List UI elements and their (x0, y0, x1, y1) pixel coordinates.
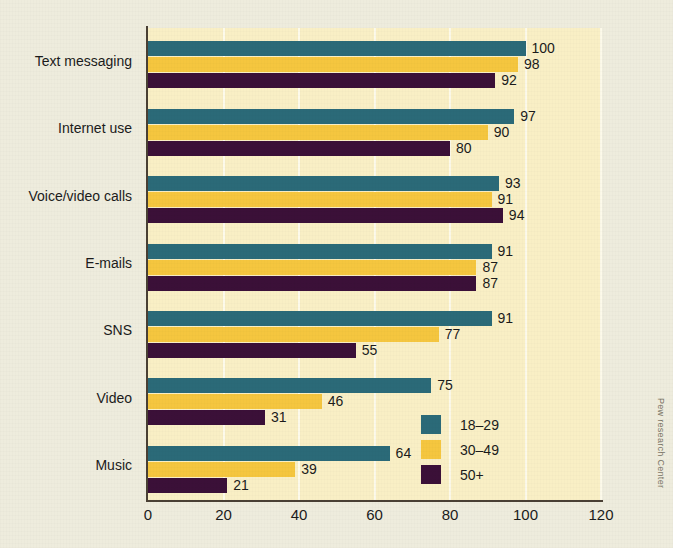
bar-e-mails-50+ (148, 276, 476, 291)
legend-item: 30–49 (421, 437, 499, 462)
bar-e-mails-30-49 (148, 260, 476, 275)
bar-value-label: 80 (456, 141, 472, 156)
bar-internet-use-18-29 (148, 109, 514, 124)
bar-value-label: 87 (482, 260, 498, 275)
bar-value-label: 92 (501, 73, 517, 88)
bar-voice-video-calls-18-29 (148, 176, 499, 191)
x-tick-label: 80 (420, 506, 480, 523)
category-label-text-messaging: Text messaging (0, 53, 141, 69)
bar-value-label: 90 (494, 125, 510, 140)
chart-figure: 1009892979080939194918787917755754631643… (0, 0, 673, 548)
bar-text-messaging-30-49 (148, 57, 518, 72)
legend-label: 30–49 (460, 442, 499, 458)
category-label-sns: SNS (0, 322, 141, 338)
legend-swatch-icon (421, 465, 441, 484)
legend-swatch-icon (421, 440, 441, 459)
bar-music-30-49 (148, 462, 295, 477)
bar-value-label: 100 (532, 41, 555, 56)
bar-value-label: 94 (509, 208, 525, 223)
bar-value-label: 91 (498, 244, 514, 259)
bar-value-label: 31 (271, 410, 287, 425)
plot-area: 1009892979080939194918787917755754631643… (148, 28, 601, 500)
chart-legend: 18–2930–4950+ (421, 412, 499, 487)
bar-value-label: 64 (396, 446, 412, 461)
bar-value-label: 91 (498, 192, 514, 207)
category-label-internet-use: Internet use (0, 120, 141, 136)
bar-video-30-49 (148, 394, 322, 409)
legend-item: 50+ (421, 462, 499, 487)
bar-music-50+ (148, 478, 227, 493)
bar-value-label: 97 (520, 109, 536, 124)
bar-voice-video-calls-50+ (148, 208, 503, 223)
legend-label: 50+ (460, 467, 484, 483)
x-tick-label: 20 (194, 506, 254, 523)
x-tick-label: 0 (118, 506, 178, 523)
x-axis-line (146, 500, 603, 502)
y-axis-line (146, 26, 148, 502)
bar-value-label: 98 (524, 57, 540, 72)
bar-value-label: 55 (362, 343, 378, 358)
category-label-voice-video-calls: Voice/video calls (0, 188, 141, 204)
category-label-video: Video (0, 390, 141, 406)
category-label-music: Music (0, 457, 141, 473)
attribution-text: Pew research Center (656, 398, 666, 548)
category-axis-labels: Text messagingInternet useVoice/video ca… (0, 0, 141, 548)
gridline (600, 28, 602, 500)
category-label-e-mails: E-mails (0, 255, 141, 271)
x-tick-label: 120 (571, 506, 631, 523)
legend-swatch-icon (421, 415, 441, 434)
bar-value-label: 46 (328, 394, 344, 409)
bar-sns-30-49 (148, 327, 439, 342)
gridline (525, 28, 527, 500)
bar-value-label: 77 (445, 327, 461, 342)
bar-value-label: 75 (437, 378, 453, 393)
bar-music-18-29 (148, 446, 390, 461)
bar-voice-video-calls-30-49 (148, 192, 492, 207)
x-tick-label: 40 (269, 506, 329, 523)
bar-sns-50+ (148, 343, 356, 358)
bar-value-label: 93 (505, 176, 521, 191)
bar-value-label: 39 (301, 462, 317, 477)
bar-text-messaging-18-29 (148, 41, 526, 56)
bar-video-50+ (148, 410, 265, 425)
bar-internet-use-50+ (148, 141, 450, 156)
bar-value-label: 91 (498, 311, 514, 326)
bar-sns-18-29 (148, 311, 492, 326)
bar-internet-use-30-49 (148, 125, 488, 140)
legend-item: 18–29 (421, 412, 499, 437)
bar-video-18-29 (148, 378, 431, 393)
bar-value-label: 21 (233, 478, 249, 493)
bar-e-mails-18-29 (148, 244, 492, 259)
x-tick-label: 60 (345, 506, 405, 523)
bar-value-label: 87 (482, 276, 498, 291)
bar-text-messaging-50+ (148, 73, 495, 88)
legend-label: 18–29 (460, 417, 499, 433)
x-tick-label: 100 (496, 506, 556, 523)
